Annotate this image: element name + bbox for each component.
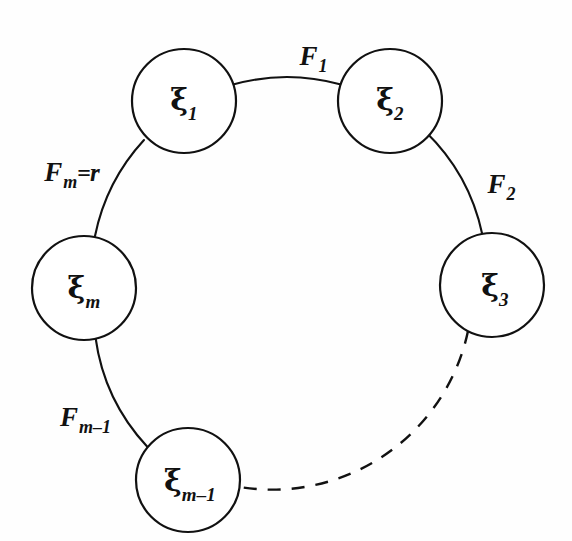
F-symbol: F bbox=[299, 41, 317, 71]
node-label-xi-m-minus-1: ξm–1 bbox=[164, 466, 216, 498]
edge-arc-xi1-xi2 bbox=[233, 77, 341, 84]
edge-label-Fm-minus-1: Fm–1 bbox=[60, 404, 110, 431]
xi-symbol: ξ bbox=[68, 270, 86, 305]
edge-label-F1: F1 bbox=[299, 43, 326, 70]
edge-arc-xim-xi1 bbox=[95, 140, 144, 236]
xi-subscript: 2 bbox=[394, 103, 404, 124]
equals-sign: = bbox=[77, 160, 91, 186]
F-subscript: m–1 bbox=[79, 417, 111, 437]
edge-arc-dashed-xi3-xim1 bbox=[240, 331, 468, 490]
figure-canvas: ξ1 ξ2 ξ3 ξm–1 ξm F1 F2 Fm=r Fm–1 bbox=[0, 0, 572, 541]
xi-symbol: ξ bbox=[170, 82, 188, 117]
node-label-xi-2: ξ2 bbox=[376, 85, 403, 117]
node-label-xi-m: ξm bbox=[68, 273, 101, 305]
edge-label-Fm-equals-r: Fm=r bbox=[44, 159, 99, 186]
r-symbol: r bbox=[90, 159, 100, 186]
F-symbol: F bbox=[487, 169, 505, 199]
node-label-xi-1: ξ1 bbox=[170, 85, 197, 117]
F-symbol: F bbox=[44, 157, 62, 187]
xi-symbol: ξ bbox=[164, 463, 182, 498]
node-label-xi-3: ξ3 bbox=[481, 271, 508, 303]
F-subscript: 1 bbox=[319, 56, 328, 76]
F-symbol: F bbox=[60, 402, 78, 432]
xi-subscript: 1 bbox=[188, 103, 198, 124]
edge-label-F2: F2 bbox=[487, 171, 514, 198]
xi-subscript: 3 bbox=[499, 289, 509, 310]
F-subscript: m bbox=[63, 172, 77, 192]
edge-arc-xi2-xi3 bbox=[425, 132, 482, 235]
F-subscript: 2 bbox=[507, 184, 516, 204]
xi-symbol: ξ bbox=[481, 268, 499, 303]
xi-symbol: ξ bbox=[376, 82, 394, 117]
xi-subscript: m–1 bbox=[182, 484, 216, 505]
xi-subscript: m bbox=[85, 291, 100, 312]
